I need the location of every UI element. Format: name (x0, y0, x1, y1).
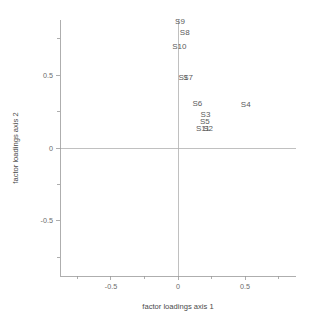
tick-marks (56, 39, 279, 280)
data-point-label-s4: S4 (241, 100, 251, 109)
y-axis-title: factor loadings axis 2 (11, 112, 20, 183)
y-tick-label: 0.5 (43, 71, 53, 80)
y-tick-label: -0.5 (41, 216, 53, 225)
data-point-label-s7: S7 (183, 73, 193, 82)
factor-loadings-scatter-plot: -0.500.5-0.500.5 S9S8S10S1S7S6S4S3S5S11S… (0, 0, 309, 321)
data-point-label-s9: S9 (175, 17, 185, 26)
data-point-labels: S9S8S10S1S7S6S4S3S5S11S2 (172, 17, 251, 134)
plot-canvas: -0.500.5-0.500.5 S9S8S10S1S7S6S4S3S5S11S… (0, 0, 309, 321)
data-point-label-s2: S2 (203, 124, 213, 133)
x-tick-label: 0.5 (240, 282, 250, 291)
data-point-label-s8: S8 (180, 28, 190, 37)
tick-labels: -0.500.5-0.500.5 (41, 71, 250, 291)
data-point-label-s6: S6 (193, 99, 203, 108)
data-point-label-s10: S10 (172, 42, 187, 51)
y-tick-label: 0 (49, 144, 53, 153)
x-axis-title: factor loadings axis 1 (142, 302, 213, 311)
zero-reference-lines (60, 20, 296, 276)
x-tick-label: 0 (176, 282, 180, 291)
x-tick-label: -0.5 (105, 282, 117, 291)
